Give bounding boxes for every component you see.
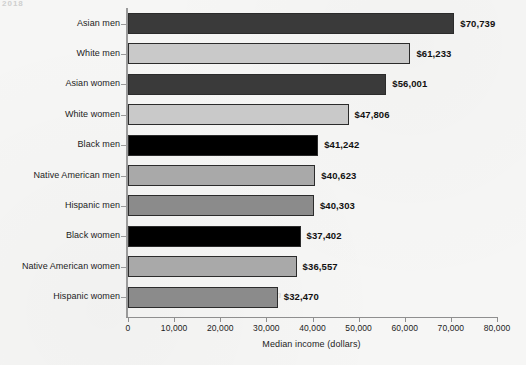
bar [128, 135, 318, 156]
x-axis-tick [451, 317, 452, 322]
bar-row: Asian women$56,001 [0, 74, 526, 95]
x-axis-tick [128, 317, 129, 322]
bar-row: Native American women$36,557 [0, 256, 526, 277]
x-axis-tick [359, 317, 360, 322]
bar-value-label: $36,557 [303, 261, 338, 272]
bar-value-label: $61,233 [416, 48, 451, 59]
x-axis-tick [405, 317, 406, 322]
x-axis-tick-label: 70,000 [438, 323, 465, 333]
y-axis-tick [121, 236, 126, 237]
category-label: White men [0, 48, 120, 58]
x-axis-line [126, 317, 497, 318]
x-axis-tick-label: 10,000 [161, 323, 188, 333]
x-axis-tick-label: 80,000 [484, 323, 511, 333]
bar [128, 256, 297, 277]
bar [128, 165, 315, 186]
bar-row: Hispanic men$40,303 [0, 195, 526, 216]
bar-row: Asian men$70,739 [0, 13, 526, 34]
category-label: White women [0, 109, 120, 119]
x-axis-tick [313, 317, 314, 322]
y-axis-tick [121, 115, 126, 116]
x-axis-tick [266, 317, 267, 322]
bar-row: White women$47,806 [0, 104, 526, 125]
bar [128, 226, 301, 247]
bar-chart: 2018 Asian men$70,739White men$61,233Asi… [0, 0, 526, 365]
y-axis-tick [121, 206, 126, 207]
x-axis-tick [497, 317, 498, 322]
bar [128, 104, 349, 125]
x-axis-tick [220, 317, 221, 322]
y-axis-tick [121, 54, 126, 55]
category-label: Asian men [0, 18, 120, 28]
bar-row: Black women$37,402 [0, 226, 526, 247]
category-label: Asian women [0, 78, 120, 88]
category-label: Black women [0, 230, 120, 240]
x-axis-tick [174, 317, 175, 322]
bar-value-label: $56,001 [392, 78, 427, 89]
category-label: Hispanic men [0, 200, 120, 210]
x-axis-tick-label: 50,000 [345, 323, 372, 333]
x-axis-tick-label: 20,000 [207, 323, 234, 333]
x-axis-tick-label: 0 [126, 323, 131, 333]
x-axis-tick-label: 30,000 [253, 323, 280, 333]
bar-value-label: $40,623 [321, 170, 356, 181]
bar-row: Black men$41,242 [0, 135, 526, 156]
bar-row: White men$61,233 [0, 43, 526, 64]
bar-value-label: $32,470 [284, 291, 319, 302]
y-axis-tick [121, 24, 126, 25]
bar-value-label: $40,303 [320, 200, 355, 211]
x-axis-tick-label: 40,000 [299, 323, 326, 333]
page-fragment-text: 2018 [2, 0, 24, 8]
bar [128, 43, 410, 64]
bar [128, 195, 314, 216]
y-axis-tick [121, 267, 126, 268]
bar-value-label: $70,739 [460, 18, 495, 29]
bar [128, 287, 278, 308]
bar-value-label: $37,402 [307, 230, 342, 241]
category-label: Native American women [0, 261, 120, 271]
bar-row: Hispanic women$32,470 [0, 287, 526, 308]
x-axis-title: Median income (dollars) [126, 339, 497, 349]
y-axis-tick [121, 297, 126, 298]
bar [128, 13, 454, 34]
y-axis-tick [121, 84, 126, 85]
bar-row: Native American men$40,623 [0, 165, 526, 186]
y-axis-tick [121, 145, 126, 146]
bar-value-label: $41,242 [324, 139, 359, 150]
category-label: Black men [0, 139, 120, 149]
bar [128, 74, 386, 95]
bar-value-label: $47,806 [355, 109, 390, 120]
category-label: Native American men [0, 170, 120, 180]
y-axis-tick [121, 176, 126, 177]
category-label: Hispanic women [0, 291, 120, 301]
x-axis-tick-label: 60,000 [391, 323, 418, 333]
